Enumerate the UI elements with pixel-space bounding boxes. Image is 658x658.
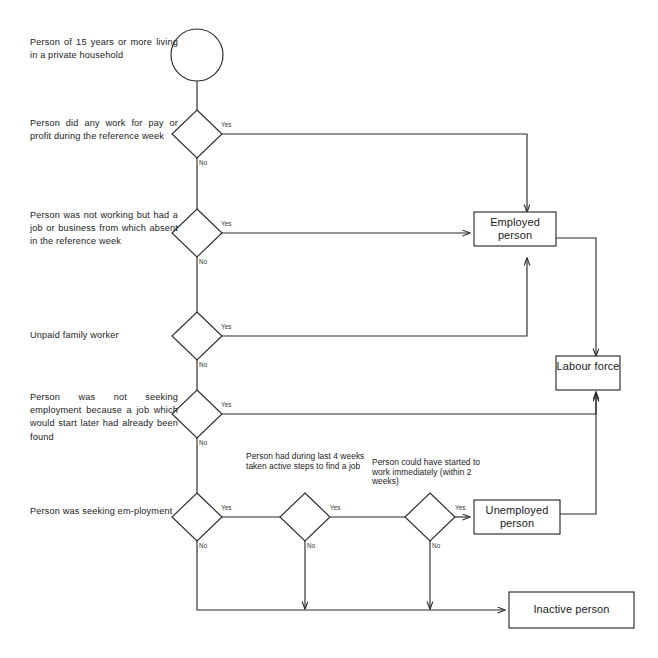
question-text-q6: Person was seeking em-ployment [30, 505, 178, 518]
edge-label-q3-yes: Yes [221, 220, 232, 227]
question-text-q4: Unpaid family worker [30, 329, 178, 342]
edge-label-q4-no: No [199, 361, 207, 368]
decision-diamond-q2 [172, 110, 222, 158]
question-text-q5: Person was not seeking employment becaus… [30, 391, 178, 444]
edge-label-q2-yes: Yes [221, 121, 232, 128]
decision-diamond-q3 [172, 209, 222, 257]
edge-q2-yes-to-employed [222, 134, 527, 212]
edge-employed-to-labour-force [556, 238, 596, 356]
question-text-q3: Person was not working but had a job or … [30, 209, 178, 249]
decision-diamond-q4 [172, 312, 222, 360]
edge-label-q6-no: No [199, 542, 207, 549]
edge-label-q5-no: No [199, 439, 207, 446]
question-text-q8: Person could have started to work immedi… [372, 458, 500, 487]
edge-q5-yes-to-labour-force [222, 394, 596, 414]
outcome-label-inactive: Inactive person [509, 603, 634, 616]
edge-label-q3-no: No [199, 258, 207, 265]
edge-q4-yes-to-employed [222, 258, 527, 336]
outcome-label-employed: Employed person [474, 216, 556, 242]
edge-unemployed-to-labour-force [560, 392, 596, 514]
edge-label-q6-yes: Yes [221, 504, 232, 511]
question-text-q7: Person had during last 4 weeks taken act… [246, 452, 366, 471]
edge-label-q8-yes: Yes [455, 504, 466, 511]
edge-label-q8-no: No [432, 542, 440, 549]
edge-label-q7-yes: Yes [330, 504, 341, 511]
edge-label-q4-yes: Yes [221, 323, 232, 330]
start-circle [171, 29, 223, 81]
edge-label-q5-yes: Yes [221, 401, 232, 408]
decision-diamond-q7 [280, 493, 330, 541]
edge-label-q7-no: No [307, 542, 315, 549]
outcome-label-unemployed: Unemployed person [474, 504, 560, 530]
outcome-label-labour-force: Labour force [556, 360, 620, 373]
decision-diamond-q8 [405, 493, 455, 541]
edge-q6-no-to-inactive [197, 541, 505, 610]
question-text-q2: Person did any work for pay or profit du… [30, 117, 178, 143]
decision-diamond-q5 [172, 390, 222, 438]
flowchart-canvas: Person of 15 years or more living in a p… [0, 0, 658, 658]
edge-label-q2-no: No [199, 159, 207, 166]
question-text-q1: Person of 15 years or more living in a p… [30, 36, 178, 62]
decision-diamond-q6 [172, 493, 222, 541]
